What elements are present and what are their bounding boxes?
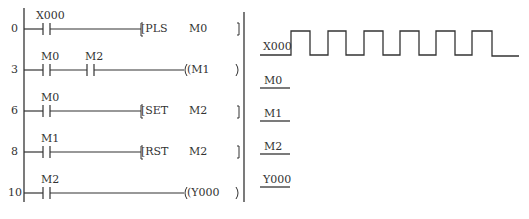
contact-label: M0 (41, 51, 59, 62)
contact-label: M2 (85, 51, 103, 62)
signal-label-x000: X000 (263, 41, 292, 52)
contact-label: X000 (36, 10, 65, 21)
instruction-op: [SET (145, 105, 168, 116)
contact-label: M1 (41, 133, 59, 144)
signal-label-y000: Y000 (263, 174, 291, 185)
step-number: 10 (4, 187, 22, 198)
step-number: 6 (0, 105, 18, 116)
coil-label: (Y000 (187, 187, 220, 198)
contact-label: M0 (41, 92, 59, 103)
contact-label: M2 (41, 174, 59, 185)
instruction-operand: M0 (189, 23, 207, 34)
step-number: 0 (0, 23, 18, 34)
coil-label: (M1 (187, 64, 210, 75)
instruction-op: [RST (145, 146, 168, 157)
instruction-operand: M2 (189, 105, 207, 116)
step-number: 3 (0, 64, 18, 75)
waveform-x000 (260, 31, 519, 56)
instruction-op: [PLS (145, 23, 168, 34)
step-number: 8 (0, 146, 18, 157)
signal-label-m0: M0 (264, 75, 282, 86)
instruction-operand: M2 (189, 146, 207, 157)
signal-label-m2: M2 (264, 141, 282, 152)
signal-label-m1: M1 (264, 108, 282, 119)
